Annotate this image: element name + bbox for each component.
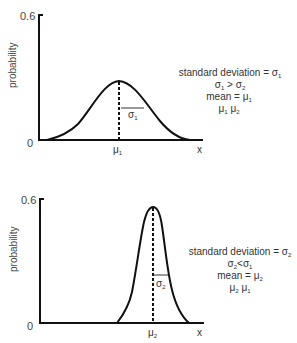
top-chart: 0.6 0 probability x σ1 μ1 standard devia… <box>7 10 282 156</box>
bottom-chart: 0.6 0 probability x σ2 μ2 standard devia… <box>8 194 292 339</box>
top-y-axis-title: probability <box>7 42 18 88</box>
svg-text:σ2<σ1: σ2<σ1 <box>228 258 254 270</box>
top-sigma-label: σ1 <box>128 109 138 121</box>
normal-distribution-figure: 0.6 0 probability x σ1 μ1 standard devia… <box>0 0 297 343</box>
top-y-min-label: 0 <box>27 137 33 149</box>
top-mean-tick-label: μ1 <box>113 144 123 156</box>
bottom-x-axis-title: x <box>197 327 202 338</box>
svg-text:standard deviation = σ2: standard deviation = σ2 <box>189 246 292 258</box>
bottom-sigma-label: σ2 <box>156 278 166 290</box>
top-x-axis-title: x <box>197 144 202 155</box>
svg-text:μ2 μ1: μ2 μ1 <box>230 282 252 294</box>
bottom-mean-tick-label: μ2 <box>148 327 158 339</box>
bottom-y-axis-title: probability <box>8 226 19 272</box>
bottom-annotation: standard deviation = σ2 σ2<σ1 mean = μ2 … <box>189 246 292 294</box>
svg-text:σ1 > σ2: σ1 > σ2 <box>215 79 246 91</box>
svg-text:mean = μ1: mean = μ1 <box>206 91 252 103</box>
bottom-y-max-label: 0.6 <box>21 194 36 206</box>
bottom-y-min-label: 0 <box>27 320 33 332</box>
svg-text:standard deviation = σ1: standard deviation = σ1 <box>179 67 282 79</box>
top-annotation: standard deviation = σ1 σ1 > σ2 mean = μ… <box>179 67 282 115</box>
top-y-max-label: 0.6 <box>20 10 35 22</box>
svg-text:μ1 μ2: μ1 μ2 <box>219 103 241 115</box>
svg-text:mean = μ2: mean = μ2 <box>217 270 263 282</box>
